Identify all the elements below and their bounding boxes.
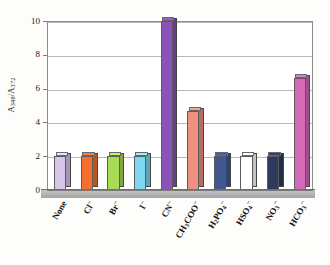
bar-column [233, 21, 260, 190]
bar-column [286, 21, 313, 190]
bar-column [127, 21, 154, 190]
bar-column [74, 21, 101, 190]
x-axis-tick-label: NO3− [263, 199, 283, 222]
x-axis-label-slot: NO3− [260, 197, 287, 263]
bar-top-face [162, 17, 174, 21]
x-axis-label-slot: HCO3− [286, 197, 313, 263]
x-axis-tick-label: None [50, 199, 69, 221]
bar-side-face [146, 153, 151, 187]
bar-top-face [109, 152, 121, 156]
bar [187, 111, 199, 190]
bar-top-face [215, 152, 227, 156]
bar [214, 156, 226, 190]
bar-side-face [279, 153, 284, 187]
x-axis-tick-label: Cl− [80, 199, 96, 216]
bar-column [100, 21, 127, 190]
bar-column [180, 21, 207, 190]
x-axis-label-slot: Br− [100, 197, 127, 263]
x-axis-tick-label: Br− [107, 199, 123, 217]
y-axis-label-separator: / [6, 94, 16, 97]
bar [240, 156, 252, 190]
bar-column [47, 21, 74, 190]
x-axis-tick-label: H2PO4− [205, 199, 229, 230]
bar [107, 156, 119, 190]
x-axis-tick-label: I− [136, 199, 149, 211]
x-axis-label-slot: H2PO4− [207, 197, 234, 263]
x-axis-tick-label: HSO4− [233, 199, 256, 227]
bar [81, 156, 93, 190]
bar-side-face [66, 153, 71, 187]
bar-top-face [268, 152, 280, 156]
bar [134, 156, 146, 190]
bar-column [207, 21, 234, 190]
y-axis-tick-label: 4 [6, 118, 40, 127]
bar [294, 78, 306, 190]
x-axis-label-slot: CH3COO− [180, 197, 207, 263]
bar-top-face [56, 152, 68, 156]
bar-top-face [189, 107, 201, 111]
x-axis-line [47, 190, 313, 191]
y-axis-tick-label: 8 [6, 50, 40, 59]
x-axis-label-slot: None [47, 197, 74, 263]
bar-column [260, 21, 287, 190]
y-axis-tick-label: 10 [6, 17, 40, 26]
bar-column [153, 21, 180, 190]
bar-chart: A348/A372 0246810 NoneCl−Br−I−CN−CH3COO−… [0, 0, 330, 265]
y-axis-tick-label: 2 [6, 152, 40, 161]
y-axis-label-sub1: 348 [9, 96, 16, 106]
x-axis-label-slot: HSO4− [233, 197, 260, 263]
bar-top-face [135, 152, 147, 156]
bar-side-face [93, 153, 98, 187]
bar-side-face [226, 153, 231, 187]
x-axis-label-slot: Cl− [74, 197, 101, 263]
y-axis-label-base1: A [6, 106, 16, 112]
x-axis-tick-label: HCO3− [286, 199, 309, 228]
bar-side-face [199, 108, 204, 187]
bar-top-face [82, 152, 94, 156]
bar-side-face [306, 75, 311, 187]
y-axis-tick-label: 0 [6, 186, 40, 195]
x-axis-label-slot: I− [127, 197, 154, 263]
bar-top-face [242, 152, 254, 156]
bar-side-face [173, 18, 178, 187]
x-axis-labels: NoneCl−Br−I−CN−CH3COO−H2PO4−HSO4−NO3−HCO… [47, 197, 313, 263]
bar [161, 21, 173, 190]
y-axis-tick-label: 6 [6, 84, 40, 93]
bar-top-face [295, 74, 307, 78]
x-axis-tick-label: CN− [158, 199, 176, 219]
bar [267, 156, 279, 190]
bar [54, 156, 66, 190]
bar-side-face [120, 153, 125, 187]
bar-side-face [253, 153, 258, 187]
bar-series [47, 21, 313, 190]
